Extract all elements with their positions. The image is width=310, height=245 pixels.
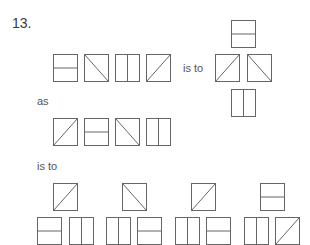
figure-vertical-icon [106, 217, 131, 245]
question-number: 13. [12, 15, 31, 31]
figure-diag-down-icon [115, 118, 140, 146]
figure-diag-up-icon [53, 118, 78, 146]
figure-diag-down-icon [122, 183, 147, 211]
figure-diag-up-icon [191, 183, 216, 211]
figure-vertical-icon [244, 217, 269, 245]
figure-horizontal-icon [231, 20, 256, 48]
figure-diag-up-icon [53, 183, 78, 211]
figure-diag-up-icon [275, 217, 300, 245]
figure-vertical-icon [175, 217, 200, 245]
figure-horizontal-icon [137, 217, 162, 245]
figure-diag-up-icon [146, 54, 171, 82]
is-to-label-2: is to [37, 160, 57, 172]
figure-horizontal-icon [260, 183, 285, 211]
figure-vertical-icon [115, 54, 140, 82]
figure-diag-down-icon [247, 54, 272, 82]
is-to-label-1: is to [183, 62, 203, 74]
figure-horizontal-icon [37, 217, 62, 245]
figure-diag-up-icon [215, 54, 240, 82]
figure-horizontal-icon [84, 118, 109, 146]
figure-vertical-icon [146, 118, 171, 146]
figure-horizontal-icon [53, 54, 78, 82]
figure-diag-down-icon [84, 54, 109, 82]
figure-vertical-icon [231, 89, 256, 117]
figure-horizontal-icon [206, 217, 231, 245]
as-label: as [37, 95, 49, 107]
figure-vertical-icon [69, 217, 94, 245]
